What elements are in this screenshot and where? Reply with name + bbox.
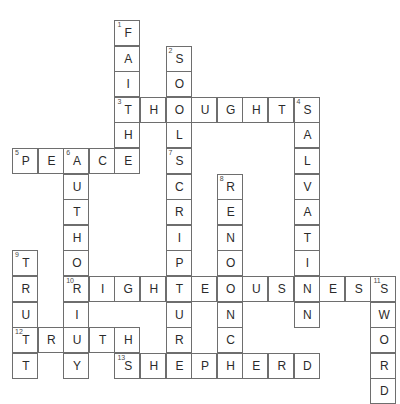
crossword-cell[interactable]: T — [63, 199, 89, 225]
cell-letter: V — [295, 175, 320, 199]
crossword-cell[interactable]: R — [268, 353, 294, 379]
crossword-cell[interactable]: N — [217, 302, 243, 328]
cell-letter: S — [167, 149, 192, 173]
crossword-cell[interactable]: E — [191, 276, 217, 302]
cell-letter: G — [115, 277, 140, 301]
crossword-cell[interactable]: H — [242, 97, 268, 123]
crossword-cell[interactable]: N — [217, 225, 243, 251]
crossword-cell[interactable]: H — [140, 97, 166, 123]
crossword-cell[interactable]: S — [268, 276, 294, 302]
cell-letter: A — [115, 47, 140, 71]
cell-letter: T — [64, 200, 89, 224]
crossword-cell[interactable]: R — [166, 327, 192, 353]
crossword-cell[interactable]: R — [12, 276, 38, 302]
crossword-cell[interactable]: U — [242, 276, 268, 302]
crossword-cell[interactable]: 11S — [370, 276, 396, 302]
crossword-cell[interactable]: 10R — [63, 276, 89, 302]
crossword-cell[interactable]: 5P — [12, 148, 38, 174]
crossword-cell[interactable]: I — [114, 71, 140, 97]
crossword-cell[interactable]: O — [217, 250, 243, 276]
crossword-cell[interactable]: U — [191, 97, 217, 123]
crossword-cell[interactable]: W — [370, 302, 396, 328]
crossword-cell[interactable]: A — [294, 122, 320, 148]
cell-letter: O — [167, 72, 192, 96]
crossword-cell[interactable]: V — [294, 174, 320, 200]
crossword-cell[interactable]: O — [63, 250, 89, 276]
crossword-cell[interactable]: H — [114, 122, 140, 148]
crossword-cell[interactable]: 4S — [294, 97, 320, 123]
cell-letter: P — [167, 251, 192, 275]
crossword-cell[interactable]: 12T — [12, 327, 38, 353]
crossword-cell[interactable]: N — [294, 302, 320, 328]
crossword-cell[interactable]: R — [38, 327, 64, 353]
crossword-cell[interactable]: 7S — [166, 148, 192, 174]
crossword-cell[interactable]: D — [294, 353, 320, 379]
crossword-cell[interactable]: 2S — [166, 46, 192, 72]
crossword-cell[interactable]: H — [140, 276, 166, 302]
crossword-cell[interactable]: E — [319, 276, 345, 302]
crossword-cell[interactable]: G — [217, 97, 243, 123]
crossword-cell[interactable]: C — [166, 174, 192, 200]
crossword-cell[interactable]: I — [63, 302, 89, 328]
crossword-cell[interactable]: T — [294, 225, 320, 251]
crossword-cell[interactable]: U — [166, 302, 192, 328]
cell-letter: A — [295, 123, 320, 147]
crossword-cell[interactable]: E — [38, 148, 64, 174]
crossword-cell[interactable]: T — [89, 327, 115, 353]
crossword-cell[interactable]: E — [242, 353, 268, 379]
crossword-cell[interactable]: E — [114, 148, 140, 174]
crossword-cell[interactable]: H — [63, 225, 89, 251]
crossword-cell[interactable]: A — [114, 46, 140, 72]
crossword-cell[interactable]: U — [63, 174, 89, 200]
crossword-cell[interactable]: E — [166, 353, 192, 379]
cell-letter: R — [269, 354, 294, 378]
crossword-cell[interactable]: I — [294, 250, 320, 276]
crossword-cell[interactable]: S — [345, 276, 371, 302]
crossword-cell[interactable]: A — [294, 199, 320, 225]
crossword-cell[interactable]: I — [89, 276, 115, 302]
cell-letter: O — [167, 98, 192, 122]
crossword-cell[interactable]: D — [370, 378, 396, 404]
crossword-cell[interactable]: P — [166, 250, 192, 276]
crossword-cell[interactable]: R — [166, 199, 192, 225]
crossword-cell[interactable]: 13S — [114, 353, 140, 379]
crossword-cell[interactable]: O — [166, 71, 192, 97]
crossword-cell[interactable]: 1F — [114, 20, 140, 46]
crossword-cell[interactable]: H — [140, 353, 166, 379]
crossword-cell[interactable]: C — [217, 327, 243, 353]
crossword-cell[interactable]: I — [166, 225, 192, 251]
crossword-cell[interactable]: O — [166, 97, 192, 123]
crossword-cell[interactable]: 6A — [63, 148, 89, 174]
crossword-cell[interactable]: H — [114, 327, 140, 353]
crossword-cell[interactable]: G — [114, 276, 140, 302]
crossword-cell[interactable]: 3T — [114, 97, 140, 123]
crossword-cell[interactable]: R — [370, 353, 396, 379]
cell-letter: U — [167, 303, 192, 327]
crossword-cell[interactable]: E — [217, 199, 243, 225]
cell-letter: L — [295, 149, 320, 173]
crossword-cell[interactable]: O — [370, 327, 396, 353]
crossword-cell[interactable]: T — [12, 353, 38, 379]
crossword-cell[interactable]: T — [166, 276, 192, 302]
crossword-cell[interactable]: T — [268, 97, 294, 123]
crossword-cell[interactable]: H — [217, 353, 243, 379]
cell-letter: T — [269, 98, 294, 122]
cell-letter: Y — [64, 354, 89, 378]
crossword-cell[interactable]: C — [89, 148, 115, 174]
cell-letter: N — [218, 226, 243, 250]
crossword-cell[interactable]: O — [217, 276, 243, 302]
cell-letter: I — [295, 251, 320, 275]
crossword-cell[interactable]: L — [294, 148, 320, 174]
cell-letter: H — [64, 226, 89, 250]
cell-letter: G — [218, 98, 243, 122]
crossword-cell[interactable]: 8R — [217, 174, 243, 200]
crossword-cell[interactable]: 9T — [12, 250, 38, 276]
crossword-cell[interactable]: U — [63, 327, 89, 353]
crossword-cell[interactable]: L — [166, 122, 192, 148]
cell-letter: U — [13, 303, 38, 327]
crossword-cell[interactable]: U — [12, 302, 38, 328]
crossword-cell[interactable]: N — [294, 276, 320, 302]
cell-letter: H — [141, 277, 166, 301]
crossword-cell[interactable]: Y — [63, 353, 89, 379]
crossword-cell[interactable]: P — [191, 353, 217, 379]
